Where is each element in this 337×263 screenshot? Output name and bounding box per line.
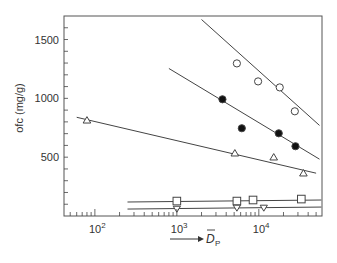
square-marker [298,195,306,203]
series-square-open [127,195,321,205]
open-circle-marker [276,84,283,91]
square-marker [173,197,181,205]
fit-line [202,20,320,126]
open-circle-marker [291,108,298,115]
square-marker [249,196,257,204]
open-circle-marker [254,78,261,85]
triangle-marker [231,150,239,156]
triangle-marker [270,154,278,160]
chart: 50010001500 102103104 ofc (mg/g) D P [0,0,337,263]
filled-circle-marker [292,143,299,150]
series-circle-open [202,20,320,126]
fit-line [127,200,321,202]
y-axis-ticks: 50010001500 [35,28,68,204]
x-axis-label-main: D [206,232,215,246]
series-triangle-up [77,117,316,176]
y-tick-label: 1000 [35,92,59,104]
x-tick-label: 104 [253,221,270,235]
series-triangle-down [127,205,321,212]
x-tick-label: 103 [171,221,188,235]
x-axis-ticks: 102103104 [70,209,316,235]
y-tick-label: 1500 [35,34,59,46]
plot-frame [64,16,322,216]
filled-circle-marker [275,130,282,137]
x-tick-label: 102 [89,221,106,235]
y-axis-label: ofc (mg/g) [13,83,25,133]
arrow-right-icon [198,236,204,242]
filled-circle-marker [238,125,245,132]
y-tick-label: 500 [41,151,59,163]
filled-circle-marker [219,96,226,103]
open-circle-marker [233,60,240,67]
fit-line [127,207,321,209]
fit-line [77,117,316,173]
x-axis-label-sub: P [215,239,220,248]
square-marker [233,197,241,205]
inverted-triangle-marker [260,205,267,211]
plot-area [77,20,322,213]
